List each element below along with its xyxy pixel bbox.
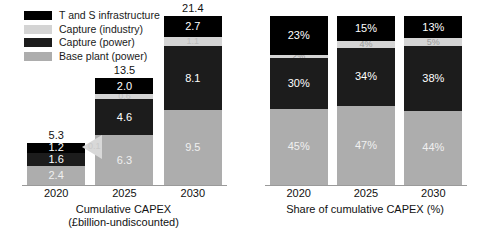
caption-cumulative-capex: Cumulative CAPEX (£billion-undiscounted) [0, 203, 247, 229]
bar-segment-label: 8.1 [185, 73, 200, 84]
bar-segment[interactable]: 6.3 [95, 135, 153, 185]
caption-share-capex: Share of cumulative CAPEX (%) [247, 203, 483, 216]
bar-total-label-2020: 5.3 [49, 129, 64, 141]
bar-column-2020[interactable]: 23%2%30%45% [265, 14, 332, 185]
bar-segment[interactable]: 44% [404, 111, 462, 185]
bar-segment-label: 4.6 [117, 112, 132, 123]
bar-segment[interactable]: 47% [337, 106, 395, 185]
x-tick-2030: 2030 [400, 187, 467, 200]
bar-segment-label: 2.4 [49, 170, 64, 181]
bar-segment[interactable]: 5% [404, 38, 462, 46]
bar-segment[interactable]: 13% [404, 16, 462, 38]
bar-segment[interactable]: 1.2 [27, 143, 85, 152]
panel-cumulative-capex: 5.31.21.62.413.52.00.64.66.321.42.71.18.… [0, 0, 247, 231]
caption-subtitle-left: (£billion-undiscounted) [0, 216, 247, 229]
bar-segment[interactable]: 2.7 [164, 16, 222, 37]
bar-stack-2025: 15%4%34%47% [337, 16, 395, 185]
x-axis-tick-labels-left: 202020252030 [22, 187, 227, 200]
x-tick-2030: 2030 [159, 187, 227, 200]
bar-segment-label: 47% [355, 140, 377, 151]
bar-stack-2025: 2.00.64.66.3 [95, 78, 153, 185]
bar-segment-label: 1.1 [187, 37, 200, 46]
bar-segment[interactable]: 15% [337, 16, 395, 41]
bar-segment-label: 45% [288, 141, 310, 152]
caption-title-left: Cumulative CAPEX [76, 203, 171, 215]
bar-total-label-2025: 13.5 [114, 64, 135, 76]
plot-area-cumulative-capex: 5.31.21.62.413.52.00.64.66.321.42.71.18.… [0, 0, 247, 186]
x-tick-2025: 2025 [332, 187, 399, 200]
bar-total-label-2030: 21.4 [182, 2, 203, 14]
plot-area-share-capex: 23%2%30%45%15%4%34%47%13%5%38%44% [247, 0, 483, 186]
bar-segment[interactable]: 45% [270, 109, 328, 185]
bar-stack-2030: 2.71.18.19.5 [164, 16, 222, 185]
x-axis-line-left [22, 185, 227, 186]
bar-segment[interactable]: 4% [337, 41, 395, 48]
caption-title-right: Share of cumulative CAPEX (%) [286, 203, 444, 215]
bar-segment-label: 34% [355, 71, 377, 82]
stacked-bar-chart-figure: T and S infrastructure Capture (industry… [0, 0, 483, 231]
bar-segment-label: 9.5 [185, 142, 200, 153]
bar-segment-label: 15% [355, 23, 377, 34]
bar-segment-label: 23% [288, 30, 310, 41]
bar-stack-2030: 13%5%38%44% [404, 16, 462, 185]
x-tick-2025: 2025 [90, 187, 158, 200]
x-axis-line-right [265, 185, 467, 186]
bar-segment-label: 1.2 [49, 143, 64, 152]
x-tick-2020: 2020 [22, 187, 90, 200]
bar-column-2025[interactable]: 13.52.00.64.66.3 [90, 64, 158, 185]
bar-segment-label: 1.6 [49, 154, 64, 165]
bar-segment-label: 6.3 [117, 155, 132, 166]
bar-segment-label: 2.7 [185, 21, 200, 32]
bar-column-2020[interactable]: 5.31.21.62.4 [22, 129, 90, 185]
bar-column-2025[interactable]: 15%4%34%47% [332, 14, 399, 185]
bar-group-cumulative-capex: 5.31.21.62.413.52.00.64.66.321.42.71.18.… [22, 2, 227, 185]
x-axis-tick-labels-right: 202020252030 [265, 187, 467, 200]
bar-segment[interactable]: 2.0 [95, 78, 153, 94]
bar-segment[interactable]: 8.1 [164, 46, 222, 110]
panel-share-cumulative-capex: 23%2%30%45%15%4%34%47%13%5%38%44% 202020… [247, 0, 483, 231]
bar-segment[interactable]: 9.5 [164, 110, 222, 185]
bar-segment-label: 30% [288, 78, 310, 89]
bar-segment[interactable]: 38% [404, 46, 462, 110]
bar-segment[interactable]: 34% [337, 48, 395, 105]
bar-segment[interactable]: 30% [270, 58, 328, 109]
bar-segment[interactable]: 1.6 [27, 153, 85, 166]
bar-segment-label: 44% [422, 142, 444, 153]
bar-column-2030[interactable]: 13%5%38%44% [400, 14, 467, 185]
bar-segment[interactable]: 2.4 [27, 166, 85, 185]
bar-segment-label: 2.0 [117, 81, 132, 92]
bar-stack-2020: 1.21.62.4 [27, 143, 85, 185]
bar-segment-label: 38% [422, 73, 444, 84]
bar-segment[interactable]: 23% [270, 16, 328, 55]
bar-segment-label: 5% [427, 38, 440, 46]
bar-stack-2020: 23%2%30%45% [270, 16, 328, 185]
bar-column-2030[interactable]: 21.42.71.18.19.5 [159, 2, 227, 185]
x-tick-2020: 2020 [265, 187, 332, 200]
bar-segment-label: 13% [422, 22, 444, 33]
bar-segment[interactable]: 4.6 [95, 99, 153, 135]
bar-segment[interactable]: 1.1 [164, 37, 222, 46]
bar-group-share-capex: 23%2%30%45%15%4%34%47%13%5%38%44% [265, 14, 467, 185]
bar-segment-label: 4% [359, 41, 372, 48]
